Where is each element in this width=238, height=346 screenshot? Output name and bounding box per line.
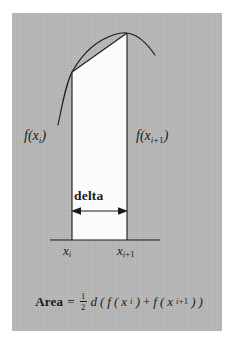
area-formula-lhs: Area: [35, 295, 63, 308]
area-formula-denominator: 2: [80, 303, 86, 312]
area-formula-term2-close: ): [191, 295, 195, 308]
area-formula-plus: +: [143, 295, 150, 308]
label-f-of-x-i-plus-1-sub: i+1: [151, 135, 164, 145]
axis-label-x-i-sub: i: [69, 249, 72, 259]
area-formula-term1-close: ): [136, 295, 140, 308]
label-f-of-x-i-close: ): [42, 128, 47, 143]
axis-label-x-i-plus-1: xi+1: [117, 243, 135, 259]
area-formula-factor-d: d: [91, 295, 98, 308]
axis-label-x-i-plus-1-sub-num: 1: [130, 249, 134, 259]
area-formula-equals: =: [66, 295, 75, 308]
area-formula: Area = 1 2 d(f(xi) + f(xi+1)): [0, 292, 238, 311]
area-formula-term2-var: x: [167, 295, 173, 308]
area-formula-open-paren: (: [100, 295, 104, 308]
area-formula-term2-fn: f: [153, 295, 157, 308]
area-formula-one-half: 1 2: [80, 292, 87, 311]
area-formula-term1-sub: i: [130, 297, 133, 306]
area-formula-term2-sub: i+1: [176, 297, 188, 306]
area-formula-term2-sub-num: 1: [184, 296, 188, 306]
area-formula-inner: Area = 1 2 d(f(xi) + f(xi+1)): [35, 292, 203, 311]
axis-label-x-i: xi: [63, 243, 71, 259]
area-formula-close-paren: ): [198, 295, 202, 308]
area-formula-term1-var: x: [121, 295, 127, 308]
label-f-of-x-i: f(xi): [24, 128, 46, 145]
area-formula-term1-fn: f: [107, 295, 111, 308]
label-f-of-x-i-plus-1-close: ): [164, 128, 169, 143]
area-formula-term2-open: (: [160, 295, 164, 308]
figure-root: f(xi) f(xi+1) delta xi xi+1 Area = 1 2 d…: [0, 0, 238, 346]
area-formula-term1-open: (: [114, 295, 118, 308]
axis-label-x-i-plus-1-sub: i+1: [123, 249, 135, 259]
label-delta: delta: [74, 188, 104, 204]
label-f-of-x-i-plus-1: f(xi+1): [136, 128, 168, 145]
area-formula-numerator: 1: [80, 292, 86, 301]
